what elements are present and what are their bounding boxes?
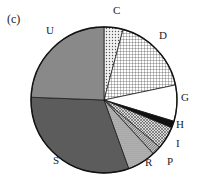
slice-label-s: S (53, 155, 59, 166)
slice-label-c: C (113, 5, 120, 16)
slice-label-r: R (145, 157, 152, 168)
pie-slices (31, 27, 177, 173)
slice-label-g: G (181, 92, 189, 103)
panel-label: (c) (7, 13, 20, 25)
slice-label-d: D (159, 30, 167, 41)
slice-label-h: H (176, 119, 184, 130)
slice-label-i: I (176, 138, 180, 149)
pie-chart (0, 0, 197, 181)
pie-slice-u (31, 27, 104, 100)
slice-label-u: U (46, 25, 54, 36)
slice-label-p: P (167, 156, 173, 167)
